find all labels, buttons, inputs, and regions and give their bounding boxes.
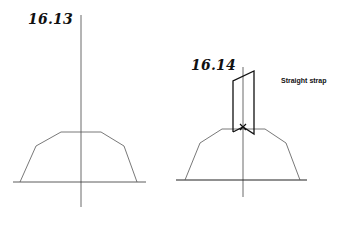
figure-label-16-13: 16.13 <box>28 11 73 27</box>
diagram-canvas <box>0 0 340 230</box>
straight-strap-annotation: Straight strap <box>281 77 327 84</box>
pattern-outline <box>185 129 300 180</box>
pattern-outline <box>20 132 137 182</box>
figure-label-16-14: 16.14 <box>191 57 236 73</box>
figure-16-14-drawing <box>176 67 307 197</box>
figure-16-13-drawing <box>13 15 146 207</box>
straight-strap-outline <box>233 71 254 134</box>
